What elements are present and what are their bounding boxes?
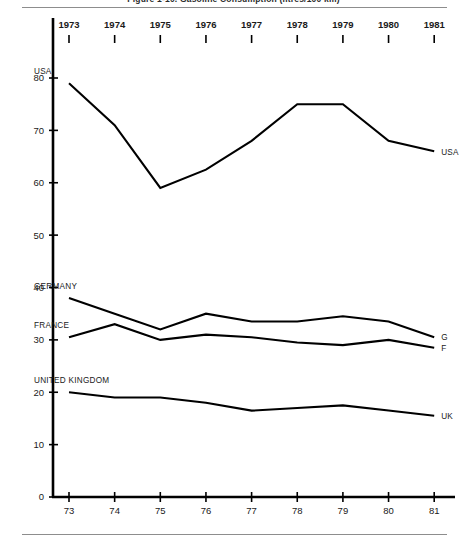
x-tick-label-bottom: 80 xyxy=(383,505,394,516)
y-tick-label: 20 xyxy=(33,387,44,398)
x-tick-label-bottom: 75 xyxy=(155,505,166,516)
series-label-group: USAUSAGERMANYGFRANCEFUNITED KINGDOMUK xyxy=(34,67,459,421)
x-tick-label-top: 1980 xyxy=(378,19,399,30)
x-tick-label-top: 1973 xyxy=(58,19,79,30)
series-label-right-germany: G xyxy=(441,333,448,342)
x-tick-label-bottom: 78 xyxy=(292,505,303,516)
x-tick-label-bottom: 81 xyxy=(429,505,440,516)
x-tick-label-bottom: 77 xyxy=(246,505,257,516)
series-label-right-united-kingdom: UK xyxy=(441,412,453,421)
x-axis-tick-labels-top: 197319741975197619771978197919801981 xyxy=(58,19,445,30)
x-axis-ticks-top xyxy=(69,35,434,43)
series-line-usa xyxy=(69,83,434,188)
series-label-left-usa: USA xyxy=(34,67,52,76)
series-label-left-germany: GERMANY xyxy=(34,282,77,291)
series-label-left-united-kingdom: UNITED KINGDOM xyxy=(34,376,109,385)
series-label-right-usa: USA xyxy=(441,148,459,157)
y-tick-label: 60 xyxy=(33,177,44,188)
x-tick-label-top: 1981 xyxy=(424,19,446,30)
x-tick-label-bottom: 76 xyxy=(201,505,212,516)
x-tick-label-top: 1974 xyxy=(104,19,126,30)
x-tick-label-bottom: 79 xyxy=(338,505,349,516)
y-tick-label: 10 xyxy=(33,439,44,450)
x-tick-label-bottom: 73 xyxy=(64,505,75,516)
x-tick-label-bottom: 74 xyxy=(109,505,120,516)
x-tick-label-top: 1978 xyxy=(287,19,308,30)
series-line-germany xyxy=(69,298,434,337)
x-tick-label-top: 1977 xyxy=(241,19,262,30)
series-label-right-france: F xyxy=(441,344,446,353)
line-chart-plot: 01020304050607080 1973197419751976197719… xyxy=(0,0,467,543)
x-tick-label-top: 1979 xyxy=(332,19,353,30)
y-tick-label: 30 xyxy=(33,334,44,345)
y-tick-label: 70 xyxy=(33,125,44,136)
series-line-france xyxy=(69,324,434,348)
data-series-group xyxy=(69,83,434,416)
x-tick-label-top: 1975 xyxy=(150,19,172,30)
x-axis-tick-labels-bottom: 737475767778798081 xyxy=(64,505,440,516)
y-tick-label: 50 xyxy=(33,230,44,241)
x-tick-label-top: 1976 xyxy=(195,19,216,30)
y-tick-label: 0 xyxy=(39,491,44,502)
series-label-left-france: FRANCE xyxy=(34,321,69,330)
figure-container: Figure 1-10. Gasoline Consumption (litre… xyxy=(0,0,467,543)
series-line-united-kingdom xyxy=(69,392,434,416)
